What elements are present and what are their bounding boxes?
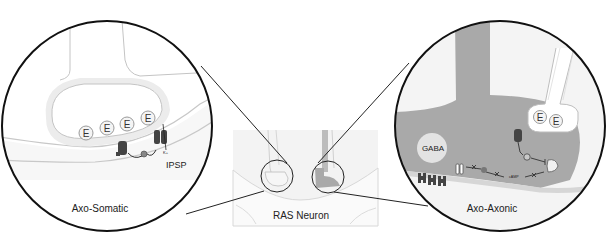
axo-somatic-label: Axo-Somatic bbox=[72, 203, 129, 214]
vesicle-label: E bbox=[537, 112, 544, 123]
camp-label: cAMP bbox=[509, 175, 519, 179]
vesicle-label: E bbox=[145, 113, 152, 124]
center-inset: RAS Neuron bbox=[233, 130, 378, 226]
receptor-icon bbox=[514, 129, 522, 142]
g-protein-icon bbox=[524, 154, 530, 160]
center-label: RAS Neuron bbox=[273, 210, 329, 221]
vesicle-label: E bbox=[104, 123, 111, 134]
axo-axonic-panel: E E cAMP bbox=[395, 20, 610, 240]
g-protein-icon bbox=[141, 151, 147, 157]
vesicle-label: E bbox=[83, 128, 90, 139]
vesicle-label: E bbox=[553, 116, 560, 127]
axo-somatic-panel: E E E E K+ IPSP bbox=[0, 20, 215, 231]
axo-axonic-label: Axo-Axonic bbox=[467, 203, 518, 214]
gaba-label: GABA bbox=[422, 144, 445, 153]
ion-label: K+ bbox=[163, 150, 169, 155]
figure-canvas: RAS Neuron E E bbox=[0, 0, 610, 240]
pka-icon bbox=[481, 167, 487, 173]
ipsp-label: IPSP bbox=[166, 160, 187, 170]
vesicle-label: E bbox=[124, 119, 131, 130]
